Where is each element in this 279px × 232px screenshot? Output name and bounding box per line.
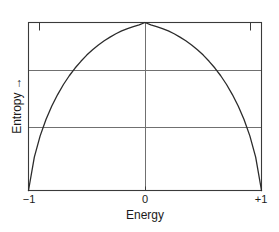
x-axis-title: Energy [79, 209, 211, 222]
x-tick-label-zero: 0 [134, 193, 156, 205]
y-axis-title: Entropy → [11, 58, 24, 154]
x-tick-label-plus-one: +1 [249, 193, 273, 205]
entropy-energy-chart: −1 0 +1 Energy Entropy → [0, 0, 279, 232]
x-tick-label-minus-one: −1 [18, 193, 40, 205]
